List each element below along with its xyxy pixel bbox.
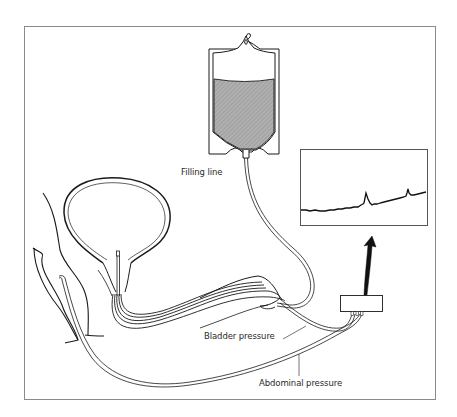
fluid-bag xyxy=(209,34,279,158)
abdominal-pressure-label: Abdominal pressure xyxy=(259,378,342,388)
filling-line-label: Filling line xyxy=(181,167,222,177)
bladder-pressure-label: Bladder pressure xyxy=(204,331,275,341)
fluid-level xyxy=(214,79,274,149)
trace-monitor xyxy=(301,150,428,226)
urodynamics-diagram xyxy=(0,0,457,417)
